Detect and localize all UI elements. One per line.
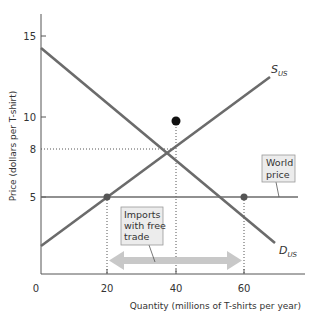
x-tick-60: 60 — [238, 283, 251, 294]
equilibrium-point — [172, 117, 181, 126]
x-tick-0: 0 — [33, 283, 39, 294]
point-domestic-supply-20 — [104, 194, 111, 201]
svg-text:Imports: Imports — [124, 209, 161, 220]
imports-callout: Imports with free trade — [121, 207, 166, 262]
svg-text:trade: trade — [124, 231, 149, 242]
y-tick-8: 8 — [30, 144, 36, 155]
demand-label: DUS — [279, 244, 298, 259]
chart: 15 10 8 5 0 20 40 60 Price (dollars per … — [0, 0, 312, 314]
x-axis-label: Quantity (millions of T-shirts per year) — [130, 301, 301, 311]
x-tick-40: 40 — [170, 283, 183, 294]
supply-label: SUS — [271, 63, 288, 78]
x-tick-20: 20 — [101, 283, 114, 294]
world-price-callout: World price — [262, 155, 295, 197]
y-tick-15: 15 — [23, 31, 36, 42]
point-domestic-demand-60 — [241, 194, 248, 201]
svg-text:price: price — [266, 169, 290, 180]
svg-text:World: World — [266, 157, 293, 168]
svg-text:with free: with free — [124, 220, 166, 231]
y-tick-5: 5 — [30, 192, 36, 203]
y-axis-label: Price (dollars per T-shirt) — [8, 91, 18, 202]
y-tick-10: 10 — [23, 112, 36, 123]
